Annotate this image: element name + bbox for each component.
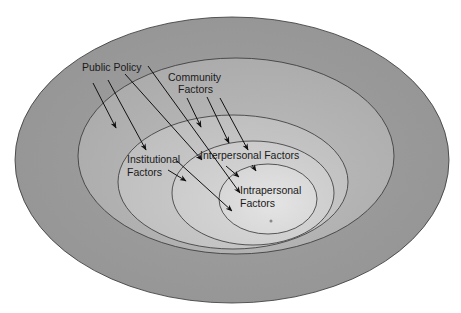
- label-community-line1: Community: [168, 71, 222, 83]
- label-institutional-line1: Institutional: [127, 153, 180, 165]
- label-intrapersonal-line1: Intrapersonal: [240, 184, 301, 196]
- label-intrapersonal-line2: Factors: [240, 197, 275, 209]
- label-institutional-line2: Factors: [127, 166, 162, 178]
- social-ecological-diagram: Public Policy Community Factors Institut…: [0, 0, 461, 313]
- label-interpersonal: Interpersonal Factors: [200, 149, 299, 161]
- speck-mark: [270, 220, 273, 223]
- label-public-policy: Public Policy: [82, 61, 142, 73]
- label-community-line2: Factors: [178, 83, 213, 95]
